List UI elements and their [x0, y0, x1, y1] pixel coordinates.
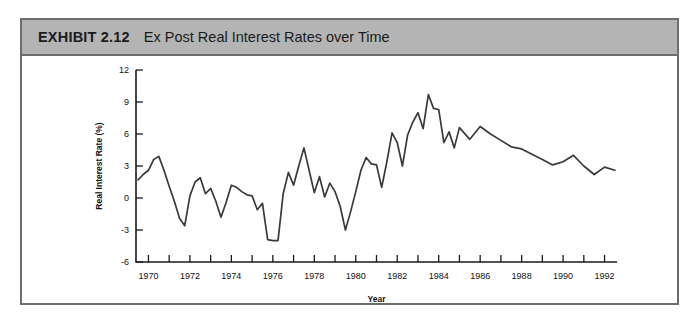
y-tick-label: -3 [121, 225, 129, 235]
line-chart: -6-3036912 19701972197419761978198019821… [22, 56, 677, 303]
y-tick-label: 6 [124, 129, 129, 139]
chart-tick-marks [136, 70, 605, 262]
x-tick-label: 1982 [387, 271, 407, 281]
page-root: EXHIBIT 2.12 Ex Post Real Interest Rates… [0, 0, 700, 323]
x-tick-label: 1976 [263, 271, 283, 281]
exhibit-header: EXHIBIT 2.12 Ex Post Real Interest Rates… [22, 20, 677, 56]
x-tick-label: 1972 [180, 271, 200, 281]
exhibit-title: Ex Post Real Interest Rates over Time [144, 29, 390, 45]
x-axis-title: Year [368, 294, 387, 303]
exhibit-frame: EXHIBIT 2.12 Ex Post Real Interest Rates… [20, 18, 679, 305]
chart-plot-area: -6-3036912 19701972197419761978198019821… [22, 56, 677, 303]
x-tick-label: 1990 [553, 271, 573, 281]
x-tick-label: 1974 [221, 271, 241, 281]
y-tick-label: -6 [121, 257, 129, 267]
y-tick-label: 0 [124, 193, 129, 203]
x-tick-label: 1984 [429, 271, 449, 281]
x-tick-label: 1988 [512, 271, 532, 281]
y-tick-label: 12 [119, 65, 129, 75]
data-line [138, 95, 615, 241]
y-tick-label: 3 [124, 161, 129, 171]
x-tick-label: 1992 [595, 271, 615, 281]
x-tick-label: 1970 [138, 271, 158, 281]
y-axis-tick-labels: -6-3036912 [119, 65, 129, 267]
exhibit-number: EXHIBIT 2.12 [38, 29, 130, 45]
x-tick-label: 1978 [304, 271, 324, 281]
y-axis-title: Real Interest Rate (%) [94, 122, 104, 210]
chart-series [138, 95, 615, 241]
x-tick-label: 1986 [470, 271, 490, 281]
x-axis-tick-labels: 1970197219741976197819801982198419861988… [138, 271, 614, 281]
x-tick-label: 1980 [346, 271, 366, 281]
y-tick-label: 9 [124, 97, 129, 107]
